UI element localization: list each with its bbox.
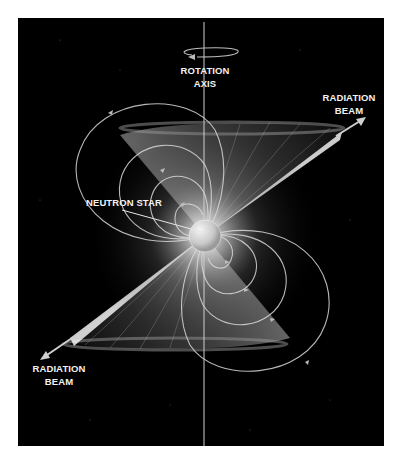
rotation-axis-label-line2: AXIS [177,77,233,90]
rotation-direction-arrow [184,48,238,60]
rotation-axis-label-line1: ROTATION [177,64,233,77]
radiation-beam-top-label-line1: RADIATION [318,91,380,104]
radiation-beam-bottom-label-line2: BEAM [28,375,90,388]
radiation-beam-bottom-label: RADIATION BEAM [28,362,90,388]
radiation-beam-top-label-line2: BEAM [318,104,380,117]
neutron-star-label: NEUTRON STAR [86,196,162,209]
rotation-axis-label: ROTATION AXIS [177,64,233,90]
radiation-beam-bottom-label-line1: RADIATION [28,362,90,375]
beam-arrow-bottom-left [40,338,72,360]
radiation-beam-top-label: RADIATION BEAM [318,91,380,117]
